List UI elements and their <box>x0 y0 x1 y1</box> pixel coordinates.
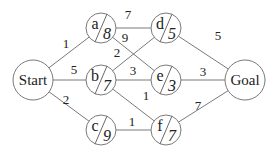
node-heuristic-value: 7 <box>168 127 177 144</box>
edge-weight-label: 9 <box>122 30 129 45</box>
node-a: a8 <box>86 13 116 43</box>
edge-weight-label: 7 <box>125 7 132 22</box>
node-label: c <box>91 117 98 134</box>
edge-weight-label: 1 <box>129 114 136 129</box>
node-label: Start <box>19 72 48 88</box>
node-b: b7 <box>86 65 116 95</box>
edge-weight-label: 7 <box>195 98 202 113</box>
node-heuristic-value: 9 <box>103 127 111 144</box>
search-graph-diagram: 152792311537 Starta8b7c9d5e3f7Goal <box>0 0 270 160</box>
edge-weight-label: 5 <box>215 28 222 43</box>
node-label: f <box>157 117 163 134</box>
node-start: Start <box>13 60 53 100</box>
node-goal: Goal <box>225 60 265 100</box>
edge-weight-label: 2 <box>114 45 121 60</box>
edge-weight-label: 2 <box>63 92 70 107</box>
edge-weight-label: 5 <box>71 62 78 77</box>
edge-weight-label: 1 <box>143 88 150 103</box>
node-e: e3 <box>151 65 181 95</box>
node-label: d <box>156 15 164 32</box>
node-heuristic-value: 5 <box>168 25 176 42</box>
node-heuristic-value: 3 <box>167 77 176 94</box>
node-label: e <box>156 67 163 84</box>
node-d: d5 <box>151 13 181 43</box>
node-heuristic-value: 7 <box>103 77 112 94</box>
edge-weight-label: 3 <box>200 64 207 79</box>
node-label: a <box>91 15 98 32</box>
node-f: f7 <box>151 115 181 145</box>
node-heuristic-value: 8 <box>103 25 111 42</box>
node-label: Goal <box>230 72 259 88</box>
edge-weight-label: 3 <box>130 63 137 78</box>
node-label: b <box>91 67 99 84</box>
nodes-layer: Starta8b7c9d5e3f7Goal <box>13 13 265 145</box>
node-c: c9 <box>86 115 116 145</box>
edge-weight-label: 1 <box>63 36 70 51</box>
